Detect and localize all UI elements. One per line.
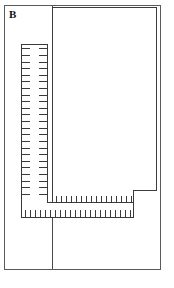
ruler-tick: [39, 167, 47, 168]
ruler-tick: [39, 128, 47, 129]
ruler-tick: [130, 210, 131, 217]
ruler-tick: [22, 148, 30, 149]
ruler-tick: [22, 141, 30, 142]
large-upper-rectangle: [52, 7, 157, 191]
ruler-tick: [70, 210, 71, 217]
corner-seam-mask-upper: [53, 189, 133, 193]
ruler-tick: [22, 154, 30, 155]
ruler-tick: [120, 210, 121, 217]
ruler-tick: [22, 55, 30, 56]
ruler-tick: [22, 75, 30, 76]
ruler-tick: [39, 48, 47, 49]
ruler-tick: [39, 114, 47, 115]
ruler-tick: [39, 108, 47, 109]
ruler-tick: [22, 68, 30, 69]
ruler-tick: [39, 75, 47, 76]
ruler-tick: [25, 210, 26, 217]
figure-panel: B: [0, 0, 174, 288]
ruler-tick: [65, 210, 66, 217]
ruler-tick: [22, 62, 30, 63]
corner-seam-mask: [22, 200, 47, 206]
ruler-tick: [40, 210, 41, 217]
ruler-tick: [39, 81, 47, 82]
ruler-tick: [39, 68, 47, 69]
ruler-tick: [22, 128, 30, 129]
ruler-tick: [22, 187, 30, 188]
ruler-tick: [35, 210, 36, 217]
ruler-tick: [39, 88, 47, 89]
ruler-tick: [39, 154, 47, 155]
ruler-tick: [100, 210, 101, 217]
ruler-tick: [39, 161, 47, 162]
ruler-tick: [39, 55, 47, 56]
ruler-tick: [22, 181, 30, 182]
ruler-tick: [22, 161, 30, 162]
ruler-tick: [39, 62, 47, 63]
vertical-ruler: [21, 44, 48, 218]
ruler-tick: [22, 167, 30, 168]
ruler-tick: [39, 187, 47, 188]
ruler-tick: [30, 210, 31, 217]
ruler-tick: [22, 88, 30, 89]
ruler-tick: [45, 210, 46, 217]
ruler-tick: [90, 210, 91, 217]
ruler-tick: [39, 95, 47, 96]
ruler-tick: [80, 210, 81, 217]
ruler-tick: [85, 210, 86, 217]
ruler-tick: [60, 210, 61, 217]
ruler-tick: [50, 210, 51, 217]
ruler-tick: [39, 121, 47, 122]
ruler-tick: [110, 210, 111, 217]
ruler-tick: [55, 210, 56, 217]
ruler-tick: [39, 141, 47, 142]
ruler-tick: [39, 181, 47, 182]
ruler-tick: [22, 114, 30, 115]
ruler-tick: [22, 81, 30, 82]
ruler-tick: [22, 95, 30, 96]
ruler-tick: [39, 194, 47, 195]
ruler-tick: [39, 101, 47, 102]
ruler-tick: [22, 101, 30, 102]
ruler-tick: [22, 174, 30, 175]
ruler-tick: [105, 210, 106, 217]
ruler-tick: [39, 174, 47, 175]
ruler-tick: [115, 210, 116, 217]
ruler-tick: [22, 134, 30, 135]
ruler-tick: [75, 210, 76, 217]
ruler-tick: [39, 148, 47, 149]
panel-label: B: [9, 9, 16, 20]
ruler-tick: [95, 210, 96, 217]
ruler-tick: [22, 48, 30, 49]
ruler-tick: [125, 210, 126, 217]
ruler-tick: [22, 194, 30, 195]
ruler-tick: [22, 108, 30, 109]
ruler-tick: [22, 121, 30, 122]
ruler-tick: [39, 134, 47, 135]
